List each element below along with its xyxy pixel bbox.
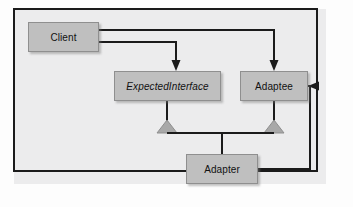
- uml-diagram-screenshot: Client ExpectedInterface Adaptee Adapter: [0, 0, 353, 207]
- node-adapter-label: Adapter: [204, 164, 240, 175]
- edge-generalization-join-bar: [167, 133, 274, 154]
- node-client[interactable]: Client: [28, 22, 99, 52]
- edge-adapter-to-expected-interface: [157, 101, 177, 133]
- node-expected-interface[interactable]: ExpectedInterface: [114, 71, 221, 101]
- edge-client-to-expected-interface: [99, 42, 181, 71]
- edge-adapter-to-adaptee-inherit: [264, 101, 284, 133]
- node-adapter[interactable]: Adapter: [186, 154, 258, 184]
- node-client-label: Client: [50, 32, 76, 43]
- node-expected-interface-label: ExpectedInterface: [126, 81, 208, 92]
- node-adaptee-label: Adaptee: [255, 81, 293, 92]
- edge-client-to-adaptee: [99, 30, 279, 71]
- node-adaptee[interactable]: Adaptee: [240, 71, 308, 101]
